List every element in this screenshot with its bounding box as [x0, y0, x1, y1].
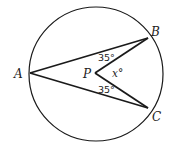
label-P: P: [82, 67, 92, 81]
label-B: B: [150, 25, 160, 39]
label-C: C: [152, 110, 161, 124]
label-A: A: [13, 67, 23, 81]
angle-label-x: x°: [112, 67, 123, 79]
angle-label-top: 35°: [98, 52, 115, 63]
angle-label-bottom: 35°: [98, 84, 115, 95]
geometry-diagram: A B C P 35° 35° x°: [0, 0, 171, 149]
diagram-canvas: A B C P 35° 35° x°: [0, 0, 171, 149]
